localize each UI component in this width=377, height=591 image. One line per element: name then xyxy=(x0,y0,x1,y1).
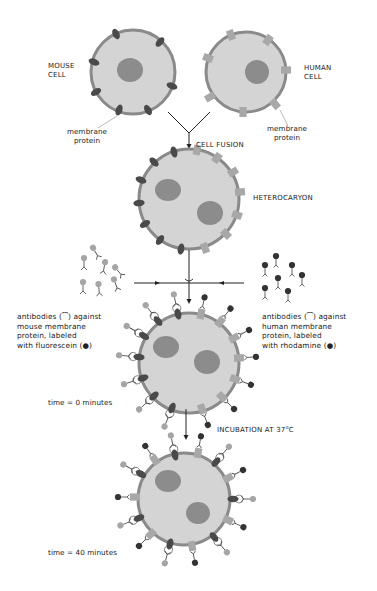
labeled-heterocaryon-t0 xyxy=(116,291,260,431)
mouse-nucleus xyxy=(117,58,143,82)
cell-fusion-label: CELL FUSION xyxy=(196,141,244,150)
antibodies-mouse-line1: antibodies (⁀) against xyxy=(17,312,101,322)
mouse-membrane-protein-line2: protein xyxy=(62,136,112,145)
antibodies-human-line3: protein, labeled xyxy=(262,331,346,341)
human-cell-label-line2: CELL xyxy=(304,73,331,82)
diagram-artwork xyxy=(0,0,377,591)
mouse-cell-label-line2: CELL xyxy=(48,71,75,80)
antibody-addition-arrows xyxy=(134,250,244,304)
incubation-label: INCUBATION AT 37oC xyxy=(217,423,294,435)
human-membrane-protein-line2: protein xyxy=(262,133,312,142)
human-cell-label-line1: HUMAN xyxy=(304,64,331,73)
mouse-membrane-protein-label: membrane protein xyxy=(62,127,112,145)
mouse-cell-label-line1: MOUSE xyxy=(48,62,75,71)
antibodies-human-line4: with rhodamine (●) xyxy=(262,341,346,351)
human-membrane-protein-line1: membrane xyxy=(262,124,312,133)
human-membrane-protein-label: membrane protein xyxy=(262,124,312,142)
human-nucleus xyxy=(245,60,269,84)
cell-fusion-diagram: MOUSE CELL HUMAN CELL membrane protein m… xyxy=(0,0,377,591)
antibodies-human-line2: human membrane xyxy=(262,322,346,332)
antibodies-mouse-label: antibodies (⁀) against mouse membrane pr… xyxy=(17,312,101,350)
antibodies-mouse-line3: protein, labeled xyxy=(17,331,101,341)
human-cell xyxy=(202,29,291,126)
labeled-heterocaryon-t40 xyxy=(115,432,256,568)
rhodamine-antibodies-free xyxy=(262,253,305,303)
time-40-label: time = 40 minutes xyxy=(48,548,117,557)
antibodies-mouse-line2: mouse membrane xyxy=(17,322,101,332)
time-0-label: time = 0 minutes xyxy=(48,398,112,407)
celsius-unit: C xyxy=(289,426,294,434)
antibodies-mouse-line4: with fluorescein (●) xyxy=(17,341,101,351)
heterocaryon xyxy=(133,144,245,255)
mouse-membrane-protein-line1: membrane xyxy=(62,127,112,136)
human-cell-label: HUMAN CELL xyxy=(304,64,331,82)
mouse-cell-label: MOUSE CELL xyxy=(48,62,75,80)
antibodies-human-line1: antibodies (⁀) against xyxy=(262,312,346,322)
antibodies-human-label: antibodies (⁀) against human membrane pr… xyxy=(262,312,346,350)
fluorescein-antibodies-free xyxy=(80,244,125,297)
heterocaryon-label: HETEROCARYON xyxy=(253,194,313,203)
incubation-text: INCUBATION AT 37 xyxy=(217,426,286,434)
mouse-cell xyxy=(88,28,179,128)
